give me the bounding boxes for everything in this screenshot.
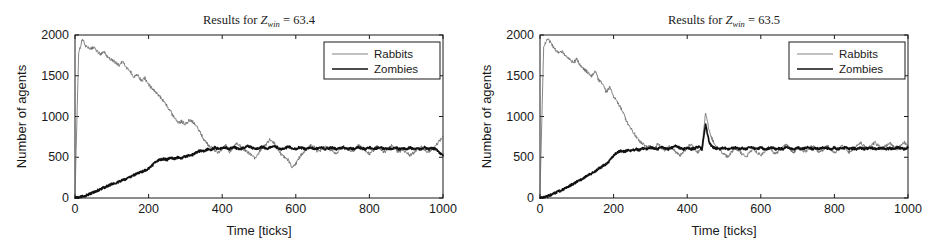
x-tick-label: 1000 (429, 202, 457, 216)
x-tick-label: 200 (603, 202, 624, 216)
x-tick-label: 200 (138, 202, 159, 216)
y-axis-title: Number of agents (479, 64, 494, 168)
chart-svg-0: Results for Zwin = 63.402004006008001000… (0, 0, 465, 246)
x-tick-label: 400 (212, 202, 233, 216)
x-tick-label: 1000 (894, 202, 922, 216)
y-tick-label: 0 (527, 191, 534, 205)
y-tick-label: 500 (48, 150, 69, 164)
x-tick-label: 400 (677, 202, 698, 216)
y-tick-label: 2000 (41, 28, 69, 42)
chart-panel-1: Results for Zwin = 63.502004006008001000… (465, 0, 930, 246)
chart-panel-0: Results for Zwin = 63.402004006008001000… (0, 0, 465, 246)
y-axis-title: Number of agents (14, 64, 29, 168)
x-tick-label: 800 (824, 202, 845, 216)
y-tick-label: 500 (513, 150, 534, 164)
y-tick-label: 2000 (506, 28, 534, 42)
figure-container: Results for Zwin = 63.402004006008001000… (0, 0, 930, 246)
chart-svg-1: Results for Zwin = 63.502004006008001000… (465, 0, 930, 246)
y-tick-label: 1000 (506, 110, 534, 124)
x-tick-label: 800 (359, 202, 380, 216)
series-line-zombies (540, 124, 908, 198)
legend-label-zombies: Zombies (374, 63, 418, 75)
x-tick-label: 0 (72, 202, 79, 216)
chart-title: Results for Zwin = 63.5 (668, 13, 780, 29)
x-axis-title: Time [ticks] (691, 223, 756, 238)
legend-label-rabbits: Rabbits (374, 48, 413, 60)
x-axis-title: Time [ticks] (226, 223, 291, 238)
legend-label-zombies: Zombies (839, 63, 883, 75)
legend-label-rabbits: Rabbits (839, 48, 878, 60)
y-tick-label: 1000 (41, 110, 69, 124)
x-tick-label: 600 (750, 202, 771, 216)
y-tick-label: 0 (62, 191, 69, 205)
x-tick-label: 0 (537, 202, 544, 216)
y-tick-label: 1500 (506, 69, 534, 83)
x-tick-label: 600 (285, 202, 306, 216)
chart-title: Results for Zwin = 63.4 (203, 13, 316, 29)
y-tick-label: 1500 (41, 69, 69, 83)
